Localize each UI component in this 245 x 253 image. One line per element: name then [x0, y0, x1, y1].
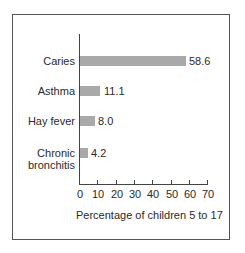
- category-label-asthma: Asthma: [38, 85, 75, 97]
- x-tick-label: 50: [166, 188, 178, 200]
- bar-caries: [80, 56, 186, 66]
- category-label-hay-fever: Hay fever: [28, 115, 75, 127]
- x-tick-label: 60: [184, 188, 196, 200]
- value-label-chronic-bronchitis: 4.2: [91, 147, 106, 159]
- value-label-hay-fever: 8.0: [98, 115, 113, 127]
- x-tick-label: 40: [147, 188, 159, 200]
- value-label-caries: 58.6: [189, 55, 210, 67]
- bar-hay-fever: [80, 116, 95, 126]
- x-tick: [97, 180, 98, 184]
- category-label-line2: bronchitis: [28, 159, 75, 171]
- bar-chronic-bronchitis: [80, 148, 88, 158]
- bar-asthma: [80, 86, 100, 96]
- x-tick: [134, 180, 135, 184]
- category-label-chronic-bronchitis: Chronic bronchitis: [28, 147, 75, 171]
- x-axis: [79, 184, 208, 185]
- x-tick-label: 0: [77, 188, 83, 200]
- x-tick-label: 70: [202, 188, 214, 200]
- x-tick: [171, 180, 172, 184]
- category-label-caries: Caries: [43, 55, 75, 67]
- x-tick: [189, 180, 190, 184]
- x-tick: [152, 180, 153, 184]
- chart-frame: [12, 14, 230, 240]
- value-label-asthma: 11.1: [104, 85, 125, 97]
- x-axis-title: Percentage of children 5 to 17: [76, 209, 223, 221]
- x-tick-label: 20: [111, 188, 123, 200]
- category-label-line1: Chronic: [28, 147, 75, 159]
- x-tick: [207, 180, 208, 184]
- x-tick-label: 10: [92, 188, 104, 200]
- x-tick-label: 30: [129, 188, 141, 200]
- x-tick: [116, 180, 117, 184]
